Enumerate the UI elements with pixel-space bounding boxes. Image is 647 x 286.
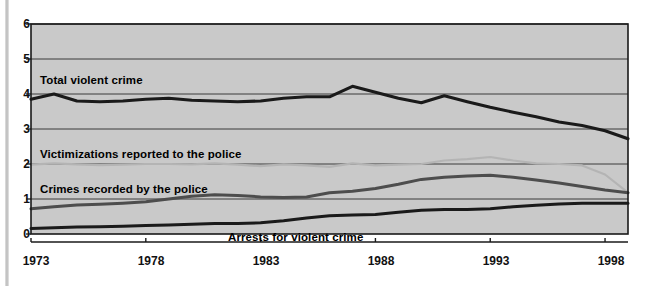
series-label-arrests-for-violent-crime: Arrests for violent crime: [228, 231, 363, 243]
series-label-total-violent-crime: Total violent crime: [40, 74, 143, 86]
chart-plot-area: [0, 0, 647, 286]
series-label-crimes-recorded: Crimes recorded by the police: [40, 183, 208, 195]
violent-crime-trend-chart: 6 5 4 3 2 1 0 1973 1978 1983 1988 1993 1…: [0, 0, 647, 286]
series-label-victimizations-reported: Victimizations reported to the police: [40, 148, 242, 160]
